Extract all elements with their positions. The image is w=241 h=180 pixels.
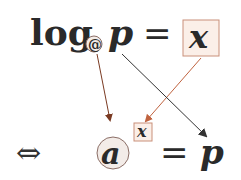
arrow-base-to-base — [97, 54, 110, 120]
base-at-label: @ — [88, 36, 102, 52]
result-x-label: x — [188, 18, 209, 56]
equivalence-icon: ⇔ — [16, 135, 41, 170]
log-label: log — [30, 11, 93, 53]
base-a-label: a — [101, 136, 120, 171]
log-exponent-diagram: log @ p = x ⇔ a x = p — [0, 0, 241, 180]
result-p-label: p — [200, 132, 224, 172]
exponent-x-label: x — [136, 122, 147, 141]
arrow-x-to-exponent — [146, 58, 201, 121]
base-symbol-top: @ — [86, 36, 102, 52]
equals-sign-bottom: = — [160, 132, 189, 172]
top-equation: log @ p = x — [30, 11, 219, 56]
bottom-equation: ⇔ a x = p — [16, 122, 224, 172]
argument-p-label: p — [108, 11, 133, 53]
equals-sign-top: = — [143, 13, 172, 53]
